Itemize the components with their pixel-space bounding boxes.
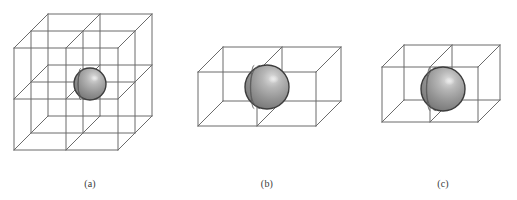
panel-label-c: (c) [437,178,449,189]
lattice-line-z [478,45,500,67]
wireframe-boxes-diagram [0,0,517,200]
panel-a [14,14,152,150]
panel-label-b: (b) [261,178,273,189]
lattice-line-z [198,101,223,126]
panel-label-a: (a) [84,178,96,189]
figure-container: (a) (b) (c) [0,0,517,200]
sphere-highlight [268,75,279,83]
lattice-line-z [316,47,341,72]
sphere [421,67,465,111]
sphere-highlight [444,77,455,85]
panel-c [382,45,500,122]
lattice-line-z [430,45,452,67]
panel-b [198,47,341,126]
lattice-line-z [316,101,341,126]
lattice-line-z [478,100,500,122]
lattice-line-z [198,47,223,72]
panels-layer [14,14,500,150]
sphere [74,68,106,100]
lattice-line-z [382,100,404,122]
sphere-highlight [91,75,99,81]
lattice-line-z [382,45,404,67]
sphere [245,65,289,109]
